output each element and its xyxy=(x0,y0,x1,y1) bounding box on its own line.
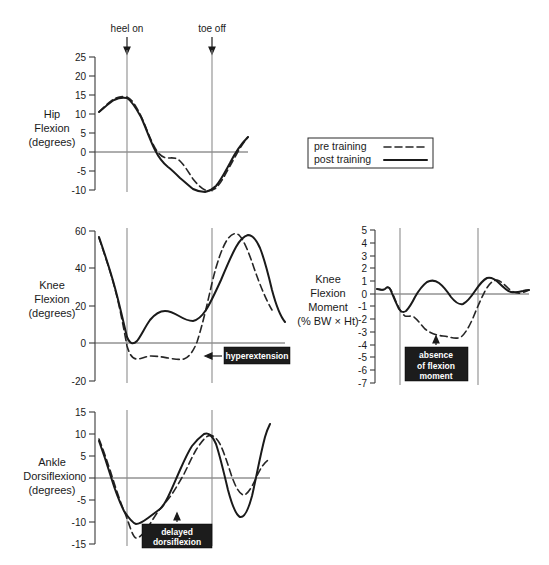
hip-y-ticks xyxy=(89,57,95,190)
ankle-tick-m10: -10 xyxy=(72,517,87,528)
ankle-tick-m15: -15 xyxy=(72,539,87,550)
absence-arrow-head xyxy=(433,336,439,343)
ankle-tick-15: 15 xyxy=(75,407,87,418)
chart-knee-flexion-moment: 5 4 3 2 1 0 -1 -2 -3 -4 -5 -6 -7 Knee Fl… xyxy=(297,225,529,389)
kneemoment-tick-2: 2 xyxy=(361,263,367,274)
kneemoment-label-line-4: (% BW × Ht) xyxy=(297,315,358,327)
ankle-y-ticks xyxy=(89,412,95,544)
annotation-delayed-dorsiflexion: delayed dorsiflexion xyxy=(142,513,212,548)
knee-series-pre-training xyxy=(99,234,272,360)
hip-label-line-1: Hip xyxy=(44,108,61,120)
event-markers-header: heel on toe off xyxy=(111,23,226,54)
kneemoment-label-line-1: Knee xyxy=(315,273,341,285)
kneemoment-tick-5: 5 xyxy=(361,225,367,236)
hip-tick-0: 0 xyxy=(80,147,86,158)
knee-label-line-2: Flexion xyxy=(34,293,69,305)
hip-tick-10: 10 xyxy=(75,109,87,120)
kneemoment-tick-m6: -6 xyxy=(358,365,367,376)
knee-axis-label: Knee Flexion (degrees) xyxy=(28,279,75,319)
absence-label-line-2: of flexion xyxy=(417,361,455,371)
hip-tick-25: 25 xyxy=(75,52,87,63)
hip-tick-m5: -5 xyxy=(77,166,86,177)
hip-label-line-2: Flexion xyxy=(34,122,69,134)
kneemoment-y-ticks xyxy=(370,230,375,383)
figure-svg: heel on toe off 25 20 15 10 5 0 -5 - xyxy=(0,0,549,565)
kneemoment-tick-1: 1 xyxy=(361,276,367,287)
ankle-label-line-1: Ankle xyxy=(38,456,66,468)
kneemoment-tick-m2: -2 xyxy=(358,314,367,325)
ankle-tick-m5: -5 xyxy=(77,495,86,506)
kneemoment-label-line-2: Flexion xyxy=(310,287,345,299)
legend-label-post-training: post training xyxy=(314,153,371,165)
chart-knee-flexion: 60 40 20 0 -20 Knee Flexion (degrees) hy… xyxy=(28,226,290,387)
event-label-heel-on: heel on xyxy=(111,23,144,34)
knee-label-line-1: Knee xyxy=(39,279,65,291)
knee-y-ticks xyxy=(89,231,95,381)
ankle-axis-label: Ankle Dorsiflexion (degrees) xyxy=(23,456,80,496)
absence-label-line-1: absence xyxy=(419,350,453,360)
kneemoment-tick-m7: -7 xyxy=(358,378,367,389)
hyperextension-label: hyperextension xyxy=(226,351,289,361)
knee-tick-40: 40 xyxy=(75,263,87,274)
legend-label-pre-training: pre training xyxy=(314,140,367,152)
kneemoment-tick-3: 3 xyxy=(361,251,367,262)
delayed-label-line-2: dorsiflexion xyxy=(153,537,201,547)
legend: pre training post training xyxy=(308,138,433,168)
annotation-hyperextension: hyperextension xyxy=(205,347,290,364)
ankle-label-line-3: (degrees) xyxy=(28,484,75,496)
hip-label-line-3: (degrees) xyxy=(28,136,75,148)
delayed-label-line-1: delayed xyxy=(161,527,193,537)
kneemoment-tick-4: 4 xyxy=(361,238,367,249)
ankle-tick-0: 0 xyxy=(80,473,86,484)
knee-label-line-3: (degrees) xyxy=(28,307,75,319)
absence-label-line-3: moment xyxy=(419,371,452,381)
kneemoment-tick-0: 0 xyxy=(361,289,367,300)
hip-tick-15: 15 xyxy=(75,90,87,101)
knee-tick-0: 0 xyxy=(80,338,86,349)
hip-tick-5: 5 xyxy=(80,128,86,139)
kneemoment-tick-m5: -5 xyxy=(358,352,367,363)
hip-series-pre-training xyxy=(99,97,248,191)
hip-series-post-training xyxy=(99,98,248,192)
kneemoment-tick-m3: -3 xyxy=(358,327,367,338)
hyperextension-arrow-head xyxy=(205,353,212,359)
hip-tick-20: 20 xyxy=(75,71,87,82)
hip-tick-m10: -10 xyxy=(72,185,87,196)
annotation-absence-of-flexion-moment: absence of flexion moment xyxy=(405,336,468,381)
chart-hip-flexion: 25 20 15 10 5 0 -5 -10 Hip Flexion (degr… xyxy=(28,50,248,196)
knee-tick-m20: -20 xyxy=(72,376,87,387)
hip-y-ticklabels: 25 20 15 10 5 0 -5 -10 xyxy=(72,52,87,196)
ankle-tick-5: 5 xyxy=(80,451,86,462)
kneemoment-tick-m1: -1 xyxy=(358,301,367,312)
kneemoment-label-line-3: Moment xyxy=(308,301,348,313)
delayed-arrow-head xyxy=(174,513,180,520)
hip-axis-label: Hip Flexion (degrees) xyxy=(28,108,75,148)
ankle-series-pre-training xyxy=(99,435,270,538)
kneemoment-axis-label: Knee Flexion Moment (% BW × Ht) xyxy=(297,273,358,327)
chart-ankle-dorsiflexion: 15 10 5 0 -5 -10 -15 Ankle Dorsiflexion … xyxy=(23,407,270,550)
ankle-label-line-2: Dorsiflexion xyxy=(23,470,80,482)
kneemoment-y-ticklabels: 5 4 3 2 1 0 -1 -2 -3 -4 -5 -6 -7 xyxy=(358,225,367,389)
knee-tick-60: 60 xyxy=(75,226,87,237)
ankle-tick-10: 10 xyxy=(75,429,87,440)
event-label-toe-off: toe off xyxy=(198,23,226,34)
gait-analysis-figure: heel on toe off 25 20 15 10 5 0 -5 - xyxy=(0,0,549,565)
kneemoment-tick-m4: -4 xyxy=(358,340,367,351)
knee-tick-20: 20 xyxy=(75,301,87,312)
